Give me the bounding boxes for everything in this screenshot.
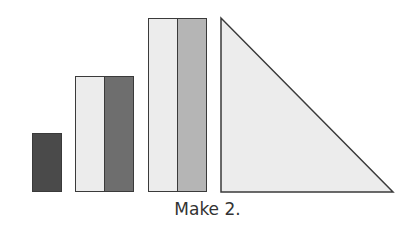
caption: Make 2. [0,199,415,219]
